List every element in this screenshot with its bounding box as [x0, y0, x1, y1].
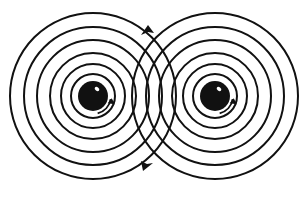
wave-interference-diagram — [0, 0, 306, 200]
right-sphere-icon — [200, 81, 230, 111]
bottom-arrow-icon — [141, 161, 153, 171]
diagram-canvas — [0, 0, 306, 200]
left-sphere-icon — [78, 81, 108, 111]
